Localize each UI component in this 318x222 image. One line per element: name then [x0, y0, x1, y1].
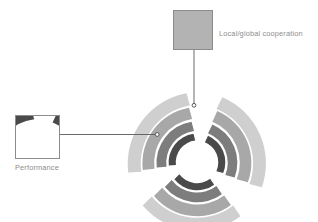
performance-caption: Performance — [15, 164, 59, 171]
cooperation-thumbnail-art — [174, 11, 212, 49]
cooperation-caption: Local/global cooperation — [219, 30, 303, 37]
connector-endpoint-dot — [192, 103, 196, 107]
performance-thumbnail-art — [16, 116, 59, 158]
performance-detail-thumbnail[interactable] — [15, 115, 60, 159]
main-radial-graphic — [112, 71, 313, 222]
connector-endpoint-dot — [155, 133, 159, 137]
cooperation-detail-thumbnail[interactable] — [173, 10, 213, 50]
connector-cooperation — [192, 50, 196, 107]
